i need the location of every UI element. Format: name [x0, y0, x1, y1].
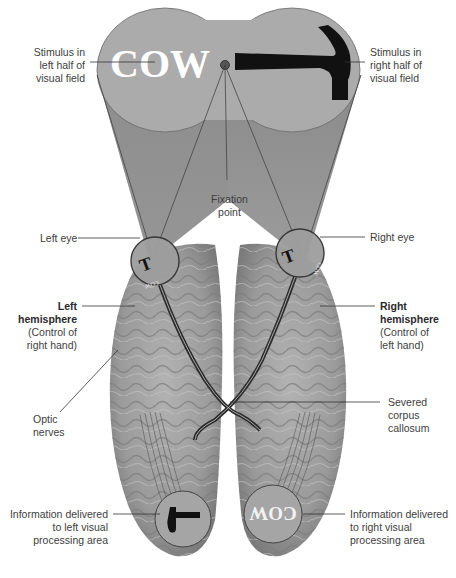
- label-stimulus-left: Stimulus in left half of visual field: [20, 46, 85, 85]
- split-brain-diagram: COW T COW: [0, 0, 456, 578]
- label-line: Information delivered: [2, 508, 108, 521]
- label-line: processing area: [350, 534, 456, 547]
- label-severed-corpus-callosum: Severed corpus callosum: [388, 396, 429, 435]
- diagram-artwork: COW T COW: [0, 0, 456, 578]
- label-line: (Control of: [10, 326, 77, 339]
- label-line: Right eye: [370, 231, 414, 243]
- label-right-hemisphere: Right hemisphere (Control of left hand): [380, 300, 450, 352]
- label-stimulus-right: Stimulus in right half of visual field: [370, 46, 450, 85]
- label-line: visual field: [370, 72, 450, 85]
- label-line: to right visual: [350, 521, 456, 534]
- label-line: hemisphere: [380, 313, 439, 325]
- label-line: Severed: [388, 396, 429, 409]
- label-line: corpus: [388, 409, 429, 422]
- label-line: (Control of: [380, 326, 450, 339]
- right-visual-processing-area: COW: [244, 485, 302, 543]
- label-line: Stimulus in: [370, 46, 450, 59]
- label-line: Stimulus in: [20, 46, 85, 59]
- label-line: right half of: [370, 59, 450, 72]
- label-line: left half of: [20, 59, 85, 72]
- label-line: to left visual: [2, 521, 108, 534]
- svg-text:COW: COW: [249, 503, 297, 524]
- label-line: Right: [380, 300, 407, 312]
- label-line: Optic: [33, 413, 65, 426]
- left-visual-processing-area: [155, 491, 211, 547]
- label-line: Left eye: [40, 232, 77, 244]
- label-line: point: [207, 206, 252, 219]
- label-left-eye: Left eye: [40, 232, 77, 245]
- label-optic-nerves: Optic nerves: [33, 413, 65, 439]
- label-line: Left: [58, 300, 77, 312]
- label-fixation-point: Fixation point: [207, 193, 252, 219]
- label-line: Information delivered: [350, 508, 456, 521]
- label-line: left hand): [380, 339, 450, 352]
- cow-word-stimulus: COW: [110, 41, 210, 86]
- label-right-eye: Right eye: [370, 231, 414, 244]
- label-line: nerves: [33, 426, 65, 439]
- label-line: hemisphere: [18, 313, 77, 325]
- label-left-hemisphere: Left hemisphere (Control of right hand): [10, 300, 77, 352]
- label-line: callosum: [388, 422, 429, 435]
- label-info-left: Information delivered to left visual pro…: [2, 508, 108, 547]
- right-eye: T COW: [276, 229, 324, 277]
- label-line: right hand): [10, 339, 77, 352]
- label-line: visual field: [20, 72, 85, 85]
- label-line: processing area: [2, 534, 108, 547]
- label-line: Fixation: [207, 193, 252, 206]
- label-info-right: Information delivered to right visual pr…: [350, 508, 456, 547]
